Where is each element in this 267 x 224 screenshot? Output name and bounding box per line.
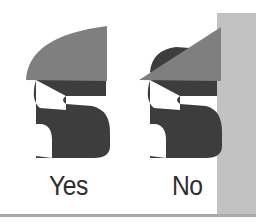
panel-yes	[26, 26, 110, 158]
cap-curved	[26, 26, 107, 81]
panel-no	[139, 27, 222, 158]
label-no: No	[172, 171, 203, 201]
baseline-rule	[0, 214, 256, 217]
wall-panel	[217, 13, 256, 217]
cap-wedge	[139, 27, 221, 81]
s-glyph-yes-body	[34, 80, 110, 158]
label-yes: Yes	[49, 171, 88, 201]
comparison-diagram	[0, 0, 267, 224]
s-glyph-no-body	[148, 80, 222, 158]
